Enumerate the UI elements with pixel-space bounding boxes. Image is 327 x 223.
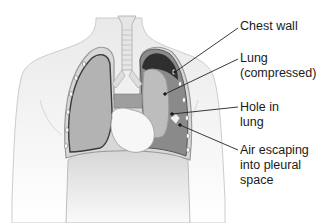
pneumothorax-diagram: Chest wall Lung (compressed) Hole in lun…: [0, 0, 327, 223]
great-vessels: [114, 94, 142, 108]
label-lung-compressed: Lung (compressed): [240, 51, 316, 81]
label-air-escaping: Air escaping into pleural space: [240, 143, 309, 188]
label-chest-wall: Chest wall: [240, 19, 298, 34]
label-hole-in-lung: Hole in lung: [240, 100, 279, 130]
diaphragm: [66, 145, 190, 223]
